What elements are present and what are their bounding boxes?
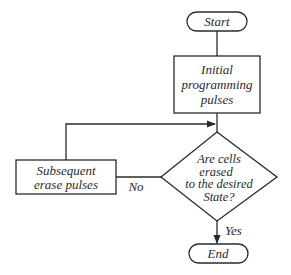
- decision-label-line-1: Are cells: [196, 152, 241, 166]
- subsequent-label-line-2: erase pulses: [34, 177, 98, 192]
- initial-label-line-3: pulses: [200, 92, 234, 107]
- subsequent-label-line-1: Subsequent: [36, 163, 96, 178]
- start-node: Start: [187, 12, 247, 31]
- edge-label-no: No: [127, 179, 144, 194]
- flowchart-canvas: Start Initial programming pulses Are cel…: [0, 0, 291, 275]
- initial-programming-node: Initial programming pulses: [174, 56, 260, 113]
- decision-label-line-3: to the desired: [185, 177, 253, 191]
- edge-label-yes: Yes: [225, 223, 242, 238]
- decision-node: Are cells erased to the desired State?: [161, 132, 277, 221]
- end-label: End: [207, 246, 229, 261]
- subsequent-erase-node: Subsequent erase pulses: [16, 160, 116, 194]
- start-label: Start: [204, 14, 230, 29]
- initial-label-line-2: programming: [180, 77, 253, 92]
- decision-label-line-4: State?: [203, 190, 235, 204]
- end-node: End: [189, 244, 248, 263]
- initial-label-line-1: Initial: [200, 62, 233, 77]
